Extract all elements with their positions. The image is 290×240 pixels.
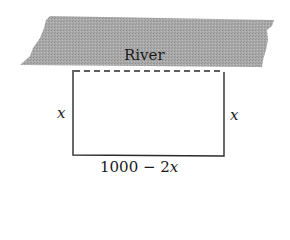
bottom-side-label: 1000 − 2x bbox=[100, 158, 178, 176]
right-side-label: x bbox=[230, 106, 238, 124]
fence-rectangle bbox=[73, 70, 224, 156]
river-label: River bbox=[124, 46, 165, 64]
bottom-label-number: 1000 − 2 bbox=[100, 158, 170, 176]
left-side-label: x bbox=[57, 104, 65, 122]
bottom-label-variable: x bbox=[170, 158, 178, 176]
